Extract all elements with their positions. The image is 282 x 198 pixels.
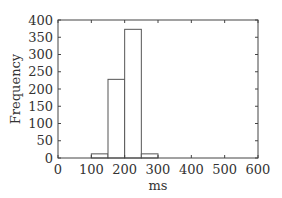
- y-tick-label: 50: [36, 133, 53, 148]
- y-tick-label: 0: [45, 151, 53, 166]
- y-tick-label: 300: [28, 47, 53, 62]
- y-tick-label: 150: [28, 99, 53, 114]
- x-tick-label: 500: [212, 162, 237, 177]
- x-axis-label: ms: [149, 178, 168, 193]
- y-tick-label: 400: [28, 13, 53, 28]
- x-axis: 0100200300400500600: [54, 20, 271, 177]
- x-tick-label: 400: [179, 162, 204, 177]
- x-tick-label: 200: [112, 162, 137, 177]
- histogram-chart: 0100200300400500600 05010015020025030035…: [0, 0, 282, 198]
- y-axis-label: Frequency: [8, 53, 23, 124]
- x-tick-label: 300: [146, 162, 171, 177]
- x-tick-label: 100: [79, 162, 104, 177]
- y-tick-label: 250: [28, 64, 53, 79]
- x-tick-label: 0: [54, 162, 62, 177]
- x-tick-label: 600: [246, 162, 271, 177]
- histogram-bar: [141, 154, 158, 158]
- histogram-bar: [91, 154, 108, 158]
- histogram-bar: [108, 79, 125, 158]
- histogram-bars: [91, 29, 158, 158]
- histogram-bar: [125, 29, 142, 158]
- plot-frame: [58, 20, 258, 158]
- y-tick-label: 350: [28, 30, 53, 45]
- y-tick-label: 200: [28, 82, 53, 97]
- y-axis: 050100150200250300350400: [28, 13, 258, 166]
- y-tick-label: 100: [28, 116, 53, 131]
